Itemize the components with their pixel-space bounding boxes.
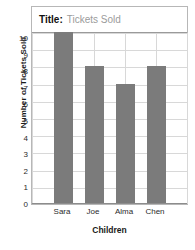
y-axis-tick-label: 10 — [14, 35, 28, 43]
chart-title-box: Title: Tickets Sold — [32, 7, 187, 33]
x-axis-title: Children — [31, 225, 188, 235]
y-axis-tick-label: 3 — [14, 151, 28, 159]
y-axis-tick-labels: 012345678910 — [14, 39, 28, 205]
y-axis-tick-label: 2 — [14, 168, 28, 176]
x-axis-tick-labels: SaraJoeAlmaChen — [31, 207, 188, 219]
x-axis-tick-label: Chen — [145, 207, 164, 216]
chart-panel: Title: Tickets Sold — [31, 6, 188, 205]
y-axis-tick-label: 8 — [14, 68, 28, 76]
x-axis-tick-label: Joe — [87, 207, 100, 216]
bar — [85, 66, 104, 204]
y-axis-tick-label: 5 — [14, 118, 28, 126]
y-axis-tick-label: 4 — [14, 135, 28, 143]
chart-title-value: Tickets Sold — [67, 14, 121, 25]
y-axis-tick-label: 0 — [14, 201, 28, 209]
bar — [116, 84, 135, 204]
bar-chart-figure: Number of Tickets Sold 012345678910 Titl… — [0, 0, 195, 250]
bar — [54, 32, 73, 204]
x-axis-tick-label: Sara — [54, 207, 71, 216]
chart-title-prefix: Title: — [39, 14, 63, 25]
y-axis-tick-label: 7 — [14, 85, 28, 93]
bar-series — [32, 33, 187, 204]
gridline-vertical — [187, 33, 188, 204]
x-axis-tick-label: Alma — [115, 207, 133, 216]
y-axis-tick-label: 6 — [14, 101, 28, 109]
y-axis-tick-label: 1 — [14, 184, 28, 192]
plot-area — [32, 33, 187, 204]
bar — [147, 66, 166, 204]
y-axis-tick-label: 9 — [14, 52, 28, 60]
x-axis-line — [32, 203, 187, 204]
